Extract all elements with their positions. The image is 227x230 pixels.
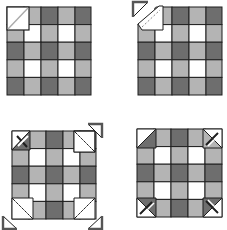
step-3-panel bbox=[0, 120, 110, 230]
step-3-grid bbox=[0, 120, 110, 230]
step-2-panel bbox=[127, 0, 227, 100]
step-4-panel bbox=[136, 128, 226, 220]
step-2-grid bbox=[127, 0, 227, 100]
step-1-grid bbox=[6, 6, 92, 96]
step-1-panel bbox=[6, 6, 92, 96]
step-4-grid bbox=[136, 128, 226, 220]
